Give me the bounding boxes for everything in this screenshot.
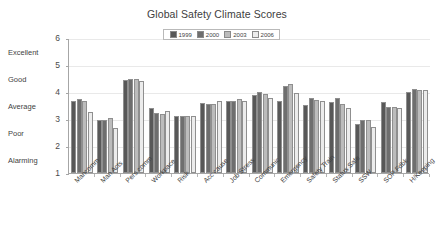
bar-2000: [360, 120, 365, 173]
legend-item-1999: 1999: [170, 31, 192, 38]
bar-2003: [417, 90, 422, 173]
bar-2003: [237, 99, 242, 173]
bar-group: [380, 39, 403, 173]
bar-group: [148, 39, 171, 173]
x-axis-tick: [223, 174, 224, 177]
x-axis-tick: [94, 174, 95, 177]
legend-item-label: 2003: [233, 32, 246, 38]
bar-group: [354, 39, 377, 173]
x-axis-tick: [171, 174, 172, 177]
bar-2003: [263, 94, 268, 173]
bar-2000: [180, 116, 185, 173]
bar-1999: [381, 102, 386, 173]
bar-2003: [185, 116, 190, 173]
y-axis-tick: [66, 147, 69, 148]
bar-group: [406, 39, 429, 173]
bar-group: [302, 39, 325, 173]
y-axis-tick: [66, 174, 69, 175]
legend-item-2000: 2000: [197, 31, 219, 38]
y-axis-category-label: Excellent: [8, 48, 64, 57]
legend-item-2003: 2003: [224, 31, 246, 38]
bar-2000: [335, 98, 340, 173]
y-axis-tick-label: 3: [38, 115, 60, 124]
bar-2000: [309, 98, 314, 173]
x-axis-tick: [429, 174, 430, 177]
y-axis-tick: [66, 93, 69, 94]
x-axis-tick: [120, 174, 121, 177]
bar-1999: [355, 124, 360, 173]
x-axis-tick: [197, 174, 198, 177]
y-axis-tick-label: 5: [38, 61, 60, 70]
bar-1999: [200, 103, 205, 173]
bar-group: [96, 39, 119, 173]
x-axis-tick: [352, 174, 353, 177]
x-axis-tick: [403, 174, 404, 177]
y-axis-tick-label: 2: [38, 142, 60, 151]
y-axis-category-label: Poor: [8, 129, 64, 138]
x-axis-tick: [249, 174, 250, 177]
legend-item-label: 2000: [206, 32, 219, 38]
bar-group: [251, 39, 274, 173]
legend-swatch-icon: [197, 31, 204, 38]
bar-1999: [71, 101, 76, 173]
bar-group: [122, 39, 145, 173]
y-axis-category-label: Alarming: [8, 156, 64, 165]
bar-2000: [102, 120, 107, 173]
legend-item-2006: 2006: [252, 31, 274, 38]
bar-2003: [366, 120, 371, 173]
y-axis-tick-label: 4: [38, 88, 60, 97]
chart-legend: 1999200020032006: [163, 29, 280, 40]
x-axis-tick: [274, 174, 275, 177]
bar-1999: [174, 116, 179, 173]
y-axis-tick: [66, 66, 69, 67]
y-axis-tick: [66, 120, 69, 121]
bar-2003: [340, 104, 345, 173]
bar-group: [70, 39, 93, 173]
bar-2000: [386, 107, 391, 173]
bar-2000: [128, 79, 133, 174]
bar-group: [199, 39, 222, 173]
bar-2003: [134, 79, 139, 174]
x-axis-tick: [377, 174, 378, 177]
bar-2003: [211, 104, 216, 173]
bar-1999: [123, 80, 128, 173]
bar-2003: [82, 101, 87, 173]
y-axis-category-label: Good: [8, 75, 64, 84]
bar-2000: [283, 86, 288, 173]
bar-2000: [77, 99, 82, 173]
x-axis-tick: [145, 174, 146, 177]
y-axis-tick-label: 1: [38, 169, 60, 178]
bar-2000: [412, 89, 417, 173]
bar-group: [225, 39, 248, 173]
plot-area: [68, 39, 429, 174]
legend-item-label: 1999: [179, 32, 192, 38]
y-axis-tick-label: 6: [38, 34, 60, 43]
bar-2006: [371, 127, 376, 173]
legend-item-label: 2006: [261, 32, 274, 38]
bar-2000: [231, 101, 236, 173]
bar-2003: [288, 84, 293, 173]
y-axis-category-label: Average: [8, 102, 64, 111]
bar-group: [277, 39, 300, 173]
bar-1999: [97, 120, 102, 173]
x-axis-tick: [326, 174, 327, 177]
y-axis-tick: [66, 39, 69, 40]
bar-2006: [191, 116, 196, 173]
bar-2000: [154, 113, 159, 173]
legend-swatch-icon: [252, 31, 259, 38]
legend-swatch-icon: [224, 31, 231, 38]
bar-2003: [392, 107, 397, 173]
x-axis-tick: [300, 174, 301, 177]
bar-2000: [257, 92, 262, 173]
bar-2000: [206, 104, 211, 173]
bar-2003: [314, 100, 319, 173]
bar-group: [174, 39, 197, 173]
bar-group: [328, 39, 351, 173]
legend-swatch-icon: [170, 31, 177, 38]
